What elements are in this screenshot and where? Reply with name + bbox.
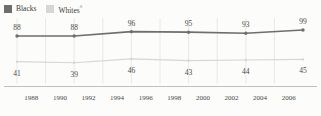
x-tick-2006: 2006 — [282, 94, 296, 102]
legend-item-blacks[interactable]: Blacks — [4, 5, 36, 13]
chart-legend: Blacks Whites^ — [4, 3, 82, 15]
x-tick-2000: 2000 — [196, 94, 210, 102]
data-label-blacks-2008: 99 — [299, 17, 307, 26]
legend-footnote-marker: ^ — [80, 4, 83, 10]
data-label-blacks-1988: 88 — [13, 23, 21, 32]
data-label-blacks-2004: 93 — [242, 20, 250, 29]
plot-area — [0, 18, 321, 92]
data-label-blacks-2000: 95 — [185, 19, 193, 28]
legend-swatch-whites — [46, 5, 54, 13]
x-tick-1988: 1988 — [24, 94, 38, 102]
data-label-whites-2000: 43 — [185, 67, 193, 76]
x-axis-tick-labels: 1988199019921994199619982000200220042006 — [0, 94, 321, 108]
data-label-whites-2004: 44 — [242, 67, 250, 76]
plot-svg — [0, 18, 321, 92]
legend-swatch-blacks — [4, 5, 12, 13]
x-tick-1992: 1992 — [82, 94, 96, 102]
x-tick-2004: 2004 — [253, 94, 267, 102]
legend-label-whites: Whites^ — [58, 3, 82, 15]
x-tick-1994: 1994 — [110, 94, 124, 102]
data-label-whites-1988: 41 — [13, 68, 21, 77]
legend-item-whites[interactable]: Whites^ — [46, 3, 82, 15]
gridlines — [17, 18, 274, 84]
legend-label-blacks: Blacks — [16, 5, 36, 13]
x-tick-1998: 1998 — [167, 94, 181, 102]
line-chart: Blacks Whites^ 888896959399413946434445 … — [0, 0, 321, 116]
data-label-blacks-1992: 88 — [70, 23, 78, 32]
data-label-whites-1992: 39 — [70, 69, 78, 78]
data-label-whites-2008: 45 — [299, 66, 307, 75]
x-tick-1996: 1996 — [139, 94, 153, 102]
data-label-blacks-1996: 96 — [128, 18, 136, 27]
data-label-whites-1996: 46 — [128, 65, 136, 74]
x-tick-1990: 1990 — [53, 94, 67, 102]
x-tick-2002: 2002 — [225, 94, 239, 102]
